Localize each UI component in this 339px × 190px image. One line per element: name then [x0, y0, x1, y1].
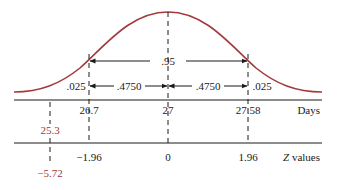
z-tick-lower: −1.96 [76, 151, 102, 163]
days-extra-value: 25.3 [40, 124, 60, 136]
days-axis-label: Days [297, 104, 320, 116]
z-axis-label: Z values [283, 151, 320, 163]
z-tick-upper: 1.96 [238, 151, 258, 163]
z-tick-mean: 0 [165, 151, 171, 163]
days-tick-lower: 26.7 [79, 104, 99, 116]
z-extra-value: −5.72 [37, 167, 62, 179]
area-right-half-label: .4750 [196, 80, 221, 92]
area-left-half-label: .4750 [117, 80, 142, 92]
right-tail-label: .025 [252, 80, 272, 92]
days-tick-upper: 27.58 [236, 104, 261, 116]
area-095-label: .95 [161, 55, 175, 67]
days-tick-mean: 27 [163, 104, 175, 116]
normal-curve-diagram: .95 .4750 .4750 .025 .025 26.7 27 27.58 … [0, 0, 339, 190]
left-tail-label: .025 [66, 80, 86, 92]
